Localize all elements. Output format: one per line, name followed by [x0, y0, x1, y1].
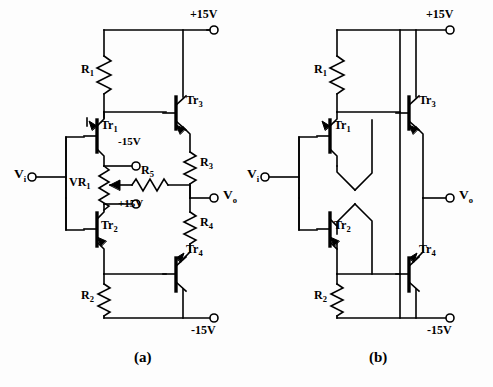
transistor-label-tr2-a: Tr2: [101, 219, 118, 234]
circuit-a-tr2: [84, 213, 97, 246]
transistor-label-tr3-b: Tr3: [419, 94, 436, 109]
terminal-minus15-a: [210, 314, 218, 322]
output-label-b: Vo: [459, 188, 473, 204]
supply-label-plus15-a: +15V: [190, 8, 218, 20]
resistor-label-r3-a: R3: [200, 156, 213, 171]
resistor-label-r4-a: R4: [200, 216, 213, 231]
circuit-figure: +15V -15V Vi Vo R1 R2 R3 R4 R5 VR1 Tr1 T…: [0, 0, 493, 387]
resistor-label-r1-a: R1: [81, 63, 94, 78]
transistor-label-tr3-a: Tr3: [186, 94, 203, 109]
transistor-label-tr2-b: Tr2: [334, 219, 351, 234]
circuit-schematic-svg: [0, 0, 493, 387]
input-label-b: Vi: [247, 167, 259, 183]
transistor-label-tr4-b: Tr4: [419, 243, 436, 258]
circuit-a-tr4: [163, 257, 186, 291]
terminal-minus15-b: [446, 314, 454, 322]
vr1-wiper-arrow: [110, 180, 120, 190]
transistor-label-tr1-b: Tr1: [334, 119, 351, 134]
terminal-vi-b: [261, 173, 269, 181]
supply-label-plus15-b: +15V: [426, 8, 454, 20]
resistor-label-r1-b: R1: [314, 63, 327, 78]
supply-label-minus15-b: -15V: [427, 324, 452, 336]
output-label-a: Vo: [223, 188, 237, 204]
input-label-a: Vi: [14, 167, 26, 183]
terminal-vr1-minus15: [132, 162, 140, 170]
terminal-vo-a: [210, 194, 218, 202]
resistor-label-r2-b: R2: [314, 289, 327, 304]
resistor-label-r2-a: R2: [81, 289, 94, 304]
pot-terminal-label-plus15: +15V: [118, 198, 143, 209]
resistor-label-r5-a: R5: [141, 164, 154, 179]
terminal-vi-a: [28, 173, 36, 181]
circuit-a-tr3: [163, 96, 186, 130]
pot-terminal-label-minus15: -15V: [118, 136, 141, 147]
circuit-b-tr2: [317, 213, 330, 246]
transistor-label-tr1-a: Tr1: [101, 119, 118, 134]
terminal-plus15-a: [210, 26, 218, 34]
potentiometer-label-vr1: VR1: [69, 176, 91, 191]
transistor-label-tr4-a: Tr4: [186, 243, 203, 258]
terminal-plus15-b: [446, 26, 454, 34]
terminal-vo-b: [446, 194, 454, 202]
circuit-a-wires: [36, 30, 211, 318]
supply-label-minus15-a: -15V: [191, 324, 216, 336]
circuit-b-wires: [269, 30, 447, 318]
caption-b: (b): [369, 350, 387, 365]
caption-a: (a): [134, 350, 152, 365]
